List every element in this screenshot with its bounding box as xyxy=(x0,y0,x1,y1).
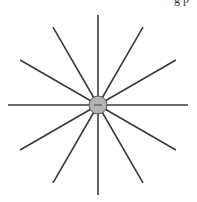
spoke-line xyxy=(53,105,98,183)
spoke-line xyxy=(20,105,98,150)
spoke-line xyxy=(20,60,98,105)
radial-diagram xyxy=(0,0,197,202)
spoke-line xyxy=(53,27,98,105)
spoke-line xyxy=(98,27,143,105)
spoke-line xyxy=(98,105,176,150)
hub xyxy=(89,96,107,114)
spoke-line xyxy=(98,60,176,105)
spoke-line xyxy=(98,105,143,183)
